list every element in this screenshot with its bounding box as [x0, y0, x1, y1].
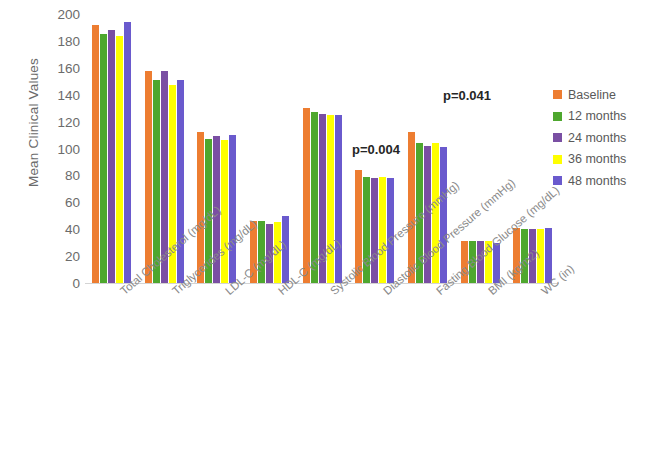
- bar: [108, 30, 115, 283]
- legend-item[interactable]: 36 months: [553, 149, 626, 171]
- bar: [371, 178, 378, 283]
- y-axis-title: Mean Clinical Values: [26, 28, 41, 218]
- bar-group: [506, 14, 559, 283]
- y-axis-tick: 60: [48, 195, 80, 210]
- bar-group: [243, 14, 296, 283]
- x-axis-tick: Systolic Blood Pressure (mmHg): [328, 288, 336, 297]
- p-value-label: p=0.004: [352, 142, 400, 157]
- legend-label: 48 months: [568, 174, 626, 188]
- x-axis-tick: LDL-C (mg/dL): [223, 288, 231, 297]
- legend-swatch-icon: [553, 155, 562, 164]
- y-axis-tick: 80: [48, 168, 80, 183]
- y-axis-tick: 200: [48, 7, 80, 22]
- bar: [440, 147, 447, 283]
- legend-item[interactable]: Baseline: [553, 84, 626, 106]
- legend-item[interactable]: 12 months: [553, 106, 626, 128]
- x-axis-tick: Triglycerides (mg/dL): [170, 288, 178, 297]
- bar: [379, 177, 386, 283]
- bar: [100, 34, 107, 283]
- bar-group: [85, 14, 138, 283]
- bar: [335, 115, 342, 283]
- bar: [116, 36, 123, 283]
- legend-swatch-icon: [553, 90, 562, 99]
- legend-label: 24 months: [568, 131, 626, 145]
- y-axis-tick: 0: [48, 276, 80, 291]
- y-axis-tick: 40: [48, 222, 80, 237]
- x-axis-tick: Diastolic Blood Pressure (mmHg): [381, 288, 389, 297]
- bar: [145, 71, 152, 284]
- x-axis-tick: WC (in): [539, 288, 547, 297]
- p-value-label: p=0.041: [443, 88, 491, 103]
- y-axis-tick: 180: [48, 33, 80, 48]
- legend: Baseline12 months24 months36 months48 mo…: [553, 84, 626, 192]
- bar: [124, 22, 131, 283]
- bar: [432, 143, 439, 283]
- x-axis-tick: Total Cholesterol (mg/dL): [118, 288, 126, 297]
- legend-swatch-icon: [553, 133, 562, 142]
- bar-chart: Mean Clinical Values 0204060801001201401…: [0, 0, 664, 454]
- y-axis-tick: 20: [48, 249, 80, 264]
- y-axis-tick: 120: [48, 114, 80, 129]
- y-axis-tick: 140: [48, 87, 80, 102]
- bar: [177, 80, 184, 283]
- y-axis-tick: 160: [48, 60, 80, 75]
- legend-label: Baseline: [568, 88, 616, 102]
- y-axis-tick: 100: [48, 141, 80, 156]
- x-axis-tick: HDL-C (mg/dL): [276, 288, 284, 297]
- legend-item[interactable]: 48 months: [553, 170, 626, 192]
- bar: [545, 228, 552, 283]
- x-axis-line: [85, 283, 559, 284]
- bar: [229, 135, 236, 283]
- bar: [221, 140, 228, 283]
- legend-swatch-icon: [553, 112, 562, 121]
- x-axis-tick: BMI (kg/m2): [486, 288, 494, 297]
- bar: [303, 108, 310, 283]
- legend-label: 12 months: [568, 109, 626, 123]
- bar: [92, 25, 99, 283]
- legend-item[interactable]: 24 months: [553, 127, 626, 149]
- legend-label: 36 months: [568, 152, 626, 166]
- x-axis-tick: Fasting Blood Glucose (mg/dL): [434, 288, 442, 297]
- legend-swatch-icon: [553, 176, 562, 185]
